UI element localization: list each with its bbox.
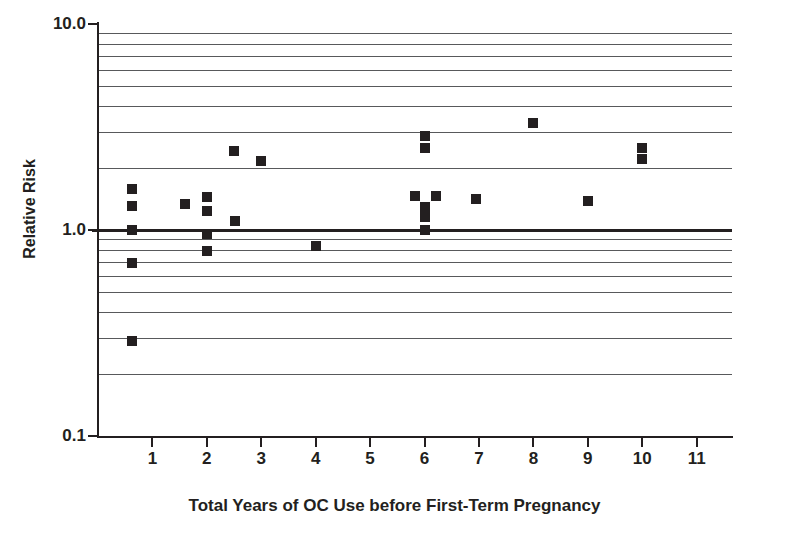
gridline xyxy=(98,262,732,263)
gridline xyxy=(98,132,732,133)
y-tick xyxy=(88,435,97,437)
gridline xyxy=(98,70,732,71)
gridline xyxy=(98,44,732,45)
gridline xyxy=(98,56,732,57)
data-point xyxy=(311,241,321,251)
data-point xyxy=(420,202,430,212)
x-tick xyxy=(206,437,208,447)
data-point xyxy=(127,258,137,268)
gridline xyxy=(98,312,732,313)
y-axis-line xyxy=(97,22,99,438)
x-tick-label: 9 xyxy=(568,450,608,467)
data-point xyxy=(420,212,430,222)
y-tick xyxy=(88,23,97,25)
x-tick xyxy=(369,437,371,447)
x-tick xyxy=(151,437,153,447)
data-point xyxy=(230,216,240,226)
gridline xyxy=(98,33,732,34)
data-point xyxy=(127,184,137,194)
data-point xyxy=(471,194,481,204)
gridline xyxy=(98,276,732,277)
data-point xyxy=(202,206,212,216)
data-point xyxy=(202,229,212,239)
y-tick xyxy=(88,229,97,231)
x-axis-line xyxy=(97,436,733,438)
gridline xyxy=(98,250,732,251)
x-tick xyxy=(478,437,480,447)
y-axis-label: Relative Risk xyxy=(21,119,39,299)
gridline xyxy=(98,374,732,375)
x-tick xyxy=(641,437,643,447)
data-point xyxy=(127,201,137,211)
x-tick-label: 10 xyxy=(622,450,662,467)
data-point xyxy=(431,191,441,201)
data-point xyxy=(229,146,239,156)
data-point xyxy=(583,196,593,206)
data-point xyxy=(420,225,430,235)
x-axis-label: Total Years of OC Use before First-Term … xyxy=(0,496,789,516)
x-tick-label: 11 xyxy=(677,450,717,467)
data-point xyxy=(202,192,212,202)
x-tick-label: 5 xyxy=(350,450,390,467)
x-tick-label: 4 xyxy=(296,450,336,467)
data-point xyxy=(637,143,647,153)
data-point xyxy=(420,143,430,153)
gridline xyxy=(98,338,732,339)
data-point xyxy=(202,246,212,256)
data-point xyxy=(256,156,266,166)
data-point xyxy=(420,131,430,141)
x-tick xyxy=(587,437,589,447)
gridline xyxy=(98,239,732,240)
x-tick-label: 1 xyxy=(132,450,172,467)
data-point xyxy=(127,336,137,346)
x-tick xyxy=(315,437,317,447)
x-tick xyxy=(696,437,698,447)
gridline xyxy=(98,86,732,87)
x-tick-label: 3 xyxy=(241,450,281,467)
gridline xyxy=(98,168,732,169)
scatter-plot-figure: 10.01.00.1 1234567891011 Relative Risk T… xyxy=(0,0,789,533)
x-tick xyxy=(532,437,534,447)
gridline xyxy=(98,292,732,293)
data-point xyxy=(637,154,647,164)
x-tick-label: 2 xyxy=(187,450,227,467)
gridline xyxy=(98,106,732,107)
x-tick-label: 8 xyxy=(513,450,553,467)
x-tick xyxy=(260,437,262,447)
y-tick-label: 0.1 xyxy=(62,427,86,444)
x-tick xyxy=(424,437,426,447)
x-tick-label: 6 xyxy=(405,450,445,467)
data-point xyxy=(410,191,420,201)
data-point xyxy=(180,199,190,209)
reference-line-1 xyxy=(92,229,732,232)
data-point xyxy=(528,118,538,128)
y-tick-label: 1.0 xyxy=(62,221,86,238)
y-tick-label: 10.0 xyxy=(53,15,86,32)
x-tick-label: 7 xyxy=(459,450,499,467)
data-point xyxy=(127,225,137,235)
